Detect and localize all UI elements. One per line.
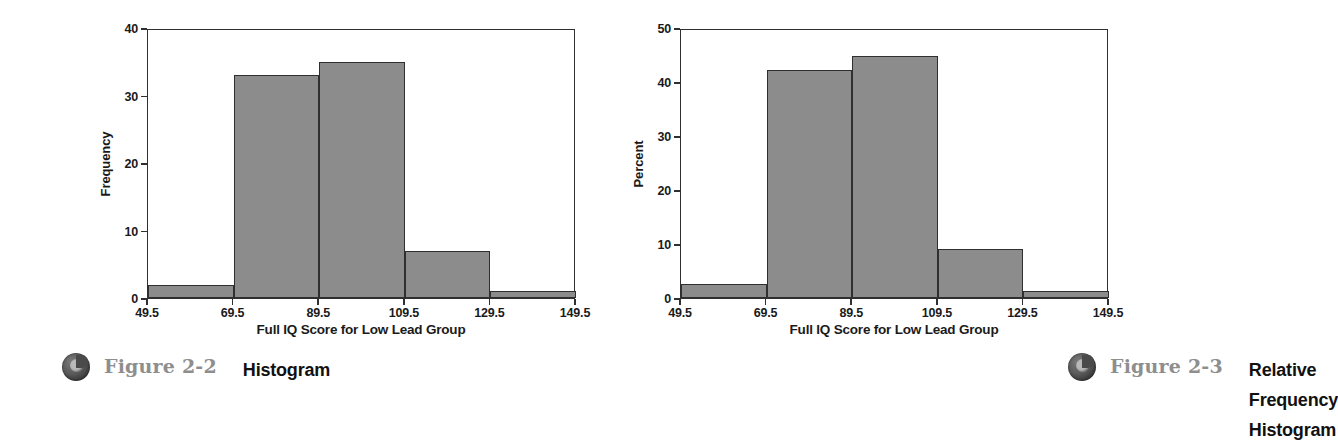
x-tick-mark [765,299,767,305]
y-tick-label: 50 [657,20,671,38]
x-tick-mark [1107,299,1109,305]
histogram-bar [319,62,405,298]
chart-percent-histogram: Percent 01020304050 49.569.589.5109.5129… [533,0,1099,345]
x-tick-label: 69.5 [221,306,245,320]
x-tick-mark [489,299,491,305]
x-tick-label: 49.5 [668,306,692,320]
figure-title: Histogram [243,355,330,385]
histogram-bar [767,70,853,298]
figure-histogram-relative-frequency: Percent 01020304050 49.569.589.5109.5129… [533,0,1099,437]
histogram-bar [852,56,938,298]
x-tick-label: 109.5 [389,306,419,320]
bar-series [681,30,1107,298]
sphere-bullet-icon [62,353,90,381]
figure-title: Relative Frequency Histogram [1249,355,1338,444]
figure-histogram-frequency: Frequency 010203040 49.569.589.5109.5129… [0,0,566,437]
x-tick-mark [317,299,319,305]
x-tick-mark [936,299,938,305]
x-tick-mark [679,299,681,305]
y-tick-label: 10 [657,236,671,254]
figure-caption: Figure 2-2 Histogram [62,352,330,385]
sphere-bullet-icon [1068,353,1096,381]
x-tick-label: 129.5 [1007,306,1037,320]
x-tick-label: 69.5 [754,306,778,320]
plot-area [680,29,1108,299]
figure-number: Figure 2-3 [1110,355,1223,377]
figure-number: Figure 2-2 [104,355,217,377]
y-tick-label: 10 [124,223,138,241]
x-tick-label: 89.5 [839,306,863,320]
x-tick-mark [850,299,852,305]
y-tick-label: 40 [124,20,138,38]
figure-caption: Figure 2-3 Relative Frequency Histogram [1068,352,1338,444]
histogram-bar [148,285,234,299]
x-tick-label: 89.5 [306,306,330,320]
x-tick-label: 149.5 [1093,306,1123,320]
plot-area [147,29,575,299]
x-axis-title: Full IQ Score for Low Lead Group [147,322,575,337]
y-tick-label: 20 [657,182,671,200]
histogram-bar [234,75,320,298]
x-tick-label: 129.5 [474,306,504,320]
x-tick-label: 109.5 [922,306,952,320]
histogram-bar [681,284,767,298]
y-tick-label: 30 [657,128,671,146]
x-tick-mark [232,299,234,305]
y-axis-ticks: 010203040 [0,0,147,345]
x-tick-mark [146,299,148,305]
y-tick-label: 30 [124,88,138,106]
y-tick-label: 20 [124,155,138,173]
y-tick-label: 40 [657,74,671,92]
x-axis-title: Full IQ Score for Low Lead Group [680,322,1108,337]
x-tick-label: 49.5 [135,306,159,320]
bar-series [148,30,574,298]
histogram-bar [938,249,1024,298]
histogram-bar [405,251,491,298]
y-axis-ticks: 01020304050 [533,0,680,345]
histogram-bar [1023,291,1109,298]
chart-frequency-histogram: Frequency 010203040 49.569.589.5109.5129… [0,0,566,345]
x-tick-mark [1022,299,1024,305]
x-tick-mark [403,299,405,305]
